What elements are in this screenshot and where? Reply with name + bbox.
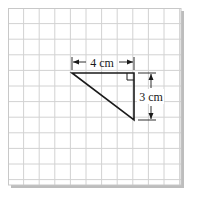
- width-label: 4 cm: [90, 56, 114, 70]
- grid-diagram: 4 cm 3 cm: [0, 0, 206, 199]
- height-label: 3 cm: [139, 90, 163, 104]
